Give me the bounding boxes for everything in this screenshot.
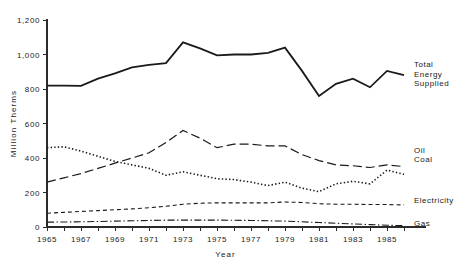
series-label-line: Electricity (414, 196, 454, 205)
x-axis-tick-label: 1971 (139, 235, 159, 244)
series-label-line: Coal (414, 155, 432, 164)
series-label-gas: Gas (414, 219, 430, 228)
series-line-coal (47, 147, 404, 192)
y-axis-tick-label: 600 (25, 120, 40, 129)
y-axis-tick-label: 800 (25, 85, 40, 94)
series-layer (47, 42, 404, 225)
x-axis-tick-label: 1985 (377, 235, 397, 244)
x-axis-title: Year (215, 250, 236, 259)
energy-supply-line-chart: TotalEnergySuppliedOilCoalElectricityGas… (0, 0, 474, 267)
y-axis-tick-label: 400 (25, 154, 40, 163)
x-axis-tick-label: 1967 (71, 235, 91, 244)
series-label-line: Supplied (414, 79, 449, 88)
y-axis-tick-label: 0 (35, 223, 40, 232)
y-axis-tick-label: 200 (25, 189, 40, 198)
series-label-total-energy-supplied: TotalEnergySupplied (414, 60, 449, 88)
x-axis-tick-label: 1983 (343, 235, 363, 244)
x-axis-tick-label: 1975 (207, 235, 227, 244)
chart-canvas: TotalEnergySuppliedOilCoalElectricityGas… (0, 0, 474, 267)
series-label-oil: Oil (414, 146, 425, 155)
series-label-coal: Coal (414, 155, 432, 164)
axis-text-layer: 02004006008001,0001,20019651967196919711… (9, 16, 397, 259)
x-axis-tick-label: 1973 (173, 235, 193, 244)
series-line-gas (47, 220, 404, 226)
x-axis-tick-label: 1969 (105, 235, 125, 244)
y-axis-tick-label: 1,200 (17, 16, 40, 25)
axis-layer (43, 19, 426, 231)
chart-axes (47, 19, 426, 227)
series-label-line: Gas (414, 219, 430, 228)
x-axis-tick-label: 1977 (241, 235, 261, 244)
series-label-line: Oil (414, 146, 425, 155)
x-axis-tick-label: 1965 (37, 235, 57, 244)
series-label-line: Energy (414, 70, 442, 79)
x-axis-tick-label: 1981 (309, 235, 329, 244)
y-axis-tick-label: 1,000 (17, 51, 40, 60)
series-label-electricity: Electricity (414, 196, 454, 205)
y-axis-title: Million Therms (9, 90, 18, 157)
series-label-layer: TotalEnergySuppliedOilCoalElectricityGas (414, 60, 454, 228)
x-axis-tick-label: 1979 (275, 235, 295, 244)
series-label-line: Total (414, 60, 433, 69)
series-line-electricity (47, 202, 404, 213)
series-line-total-energy-supplied (47, 42, 404, 95)
